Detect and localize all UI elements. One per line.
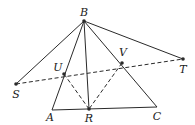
segment-BT: [84, 21, 183, 59]
segment-BR: [84, 21, 89, 109]
vertex-dots: [14, 19, 185, 111]
vertex-labels: B S T U V A R C: [12, 6, 188, 125]
geometry-diagram: B S T U V A R C: [0, 0, 195, 125]
label-B: B: [79, 6, 88, 19]
dashed-segment-ST: [16, 59, 183, 84]
point-T: [181, 57, 185, 61]
label-A: A: [45, 111, 54, 124]
label-C: C: [153, 110, 162, 123]
point-R: [87, 107, 91, 111]
dashed-segment-UR: [64, 74, 89, 109]
segment-BS: [16, 21, 84, 84]
dashed-segment-VR: [89, 63, 122, 109]
solid-lines: [16, 21, 183, 110]
label-U: U: [53, 61, 63, 74]
point-S: [14, 82, 18, 86]
segment-BC: [84, 21, 157, 107]
point-V: [120, 61, 124, 65]
label-S: S: [12, 88, 20, 101]
dashed-lines: [16, 59, 183, 109]
point-U: [62, 72, 66, 76]
label-T: T: [179, 63, 188, 76]
label-V: V: [119, 46, 128, 59]
point-B: [82, 19, 86, 23]
segment-AC: [52, 107, 157, 110]
label-R: R: [84, 112, 93, 125]
